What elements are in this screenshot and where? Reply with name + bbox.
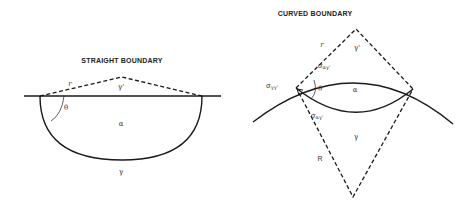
curved-label-sigma-alpha-gamma-prime-bottom: σαγ' [311,112,324,120]
sigma-subscript: αγ' [323,64,331,70]
curved-label-R: R [317,155,322,162]
curved-label-alpha: α [353,86,358,94]
straight-label-gamma: γ [119,168,123,176]
curved-label-sigma-gamma-gamma-prime: σγγ' [266,82,278,90]
straight-boundary-title: STRAIGHT BOUNDARY [81,57,162,64]
curved-label-gamma: γ [354,133,358,141]
curved-dashed-radius-lines [299,89,413,197]
straight-label-r: r [68,80,71,88]
curved-boundary-figure [253,29,453,197]
curved-label-theta: θ [318,85,322,93]
sigma-subscript: αγ' [316,114,324,120]
straight-label-alpha: α [119,120,124,128]
curved-label-r: r [320,41,323,49]
curved-label-sigma-alpha-gamma-prime-top: σαγ' [318,62,331,70]
diagram-canvas [0,0,471,203]
straight-label-gamma-prime: γ' [118,83,124,91]
straight-label-theta: θ [64,104,68,112]
curved-label-gamma-prime: γ' [354,44,360,52]
curved-dashed-upper-tangents [296,29,413,89]
straight-theta-angle-arc [51,96,64,121]
curved-boundary-title: CURVED BOUNDARY [278,10,353,17]
sigma-subscript: γγ' [271,84,278,90]
